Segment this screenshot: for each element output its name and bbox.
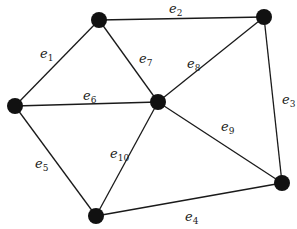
nodes-layer bbox=[7, 9, 290, 224]
edge-label-e10: e10 bbox=[110, 146, 129, 163]
edge-label-subscript: 4 bbox=[193, 216, 199, 226]
graph-diagram: e1e2e3e4e5e6e7e8e9e10 bbox=[0, 0, 297, 229]
edge-e5 bbox=[15, 106, 96, 216]
vertex-v1 bbox=[91, 12, 107, 28]
edge-label-subscript: 2 bbox=[177, 8, 183, 18]
edges-layer bbox=[15, 17, 282, 216]
edge-label-e2: e2 bbox=[169, 1, 182, 18]
vertex-v3 bbox=[7, 98, 23, 114]
edge-label-subscript: 1 bbox=[48, 53, 54, 63]
edge-label-e1: e1 bbox=[40, 46, 53, 63]
vertex-v5 bbox=[88, 208, 104, 224]
edge-label-subscript: 9 bbox=[229, 126, 235, 136]
edge-label-e9: e9 bbox=[221, 119, 235, 136]
edge-label-e4: e4 bbox=[185, 209, 199, 226]
edge-label-e5: e5 bbox=[35, 156, 49, 173]
vertex-v6 bbox=[274, 175, 290, 191]
edge-label-subscript: 6 bbox=[91, 95, 97, 105]
edge-label-e8: e8 bbox=[187, 56, 201, 73]
edge-label-subscript: 7 bbox=[147, 58, 153, 68]
edge-label-subscript: 3 bbox=[290, 99, 296, 109]
edge-e3 bbox=[264, 17, 282, 183]
edge-e8 bbox=[158, 17, 264, 102]
vertex-v4 bbox=[150, 94, 166, 110]
edge-label-subscript: 10 bbox=[118, 153, 130, 163]
edge-label-subscript: 8 bbox=[195, 63, 201, 73]
edge-label-subscript: 5 bbox=[43, 163, 49, 173]
vertex-v2 bbox=[256, 9, 272, 25]
edge-label-e3: e3 bbox=[282, 92, 296, 109]
edge-labels-layer: e1e2e3e4e5e6e7e8e9e10 bbox=[35, 1, 296, 226]
edge-e9 bbox=[158, 102, 282, 183]
edge-label-e7: e7 bbox=[139, 51, 153, 68]
edge-label-e6: e6 bbox=[83, 88, 97, 105]
